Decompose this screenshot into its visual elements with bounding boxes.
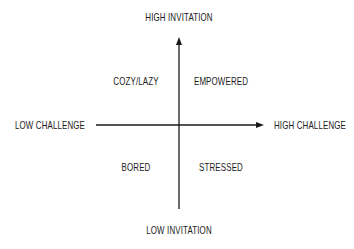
quadrant-empowered: EMPOWERED (194, 76, 248, 87)
high-invitation-label: HIGH INVITATION (145, 12, 212, 23)
quadrant-diagram: HIGH INVITATION LOW INVITATION LOW CHALL… (0, 0, 354, 249)
low-challenge-label: LOW CHALLENGE (15, 120, 85, 131)
quadrant-bored: BORED (122, 162, 151, 173)
low-invitation-label: LOW INVITATION (146, 225, 212, 236)
arrow-up-icon (176, 37, 182, 45)
high-challenge-label: HIGH CHALLENGE (274, 120, 346, 131)
quadrant-cozy-lazy: COZY/LAZY (113, 76, 158, 87)
quadrant-stressed: STRESSED (199, 162, 243, 173)
arrow-right-icon (256, 122, 264, 128)
